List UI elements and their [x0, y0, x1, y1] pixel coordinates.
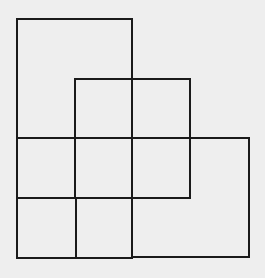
overlapping-squares-diagram: [0, 0, 265, 278]
